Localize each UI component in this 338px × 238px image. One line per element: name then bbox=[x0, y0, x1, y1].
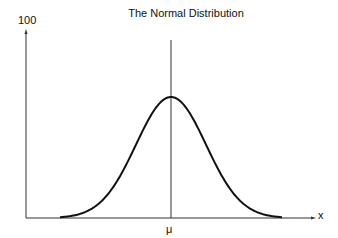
y-axis-arrow-icon bbox=[25, 29, 28, 34]
normal-distribution-plot bbox=[0, 0, 338, 238]
x-axis-arrow-icon bbox=[311, 217, 316, 220]
